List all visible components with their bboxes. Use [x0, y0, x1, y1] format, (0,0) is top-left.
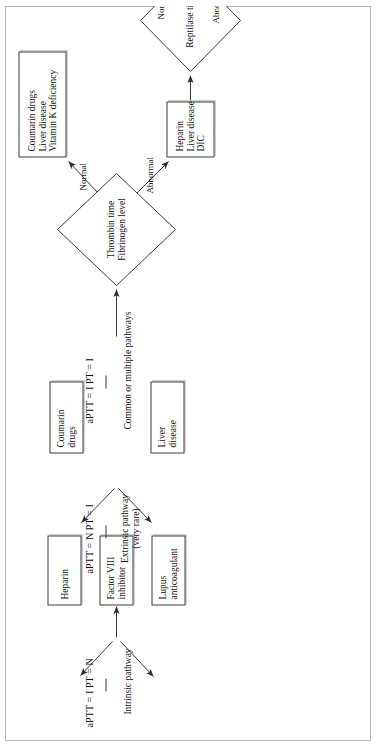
node-coumarin-drugs: Coumarin drugs — [49, 381, 83, 453]
decision-thrombin-time: Thrombin time Fibrinogen level — [56, 172, 176, 286]
group-subtitle-common: Common or multiple pathways — [122, 295, 133, 445]
decision-label-line1: Reptilase time — [184, 6, 195, 47]
flowchart-canvas: aPTT = I PT = N Intrinsic pathway Hepari… — [5, 6, 371, 741]
node-heparin-liver-dic: Heparin Liver disease DIC — [166, 101, 214, 157]
group-subtitle-line2: (very rare) — [130, 478, 141, 578]
decision-label: Reptilase time — [184, 6, 195, 47]
group-subtitle-intrinsic: Intrinsic pathway — [122, 635, 133, 727]
edge-label-abnormal-reptilase: Abnormal — [210, 6, 220, 23]
node-line: Heparin — [59, 568, 70, 599]
node-line: Heparin — [174, 120, 185, 151]
node-line: Vitamin K deficiency — [47, 69, 58, 151]
group-title-extrinsic: aPTT = N PT = I — [83, 504, 94, 573]
group-divider-tick-common — [105, 375, 106, 388]
decision-label-line2: Fibrinogen level — [116, 198, 127, 261]
group-subtitle-extrinsic: Extrinsic pathway (very rare) — [119, 478, 142, 578]
node-line: Coumarin — [55, 409, 66, 447]
node-line: Liver — [156, 426, 167, 447]
group-divider-tick-intrinsic — [105, 678, 106, 691]
node-line: Coumarin drugs — [26, 90, 37, 151]
node-heparin-intrinsic: Heparin — [47, 535, 81, 605]
decision-label: Thrombin time Fibrinogen level — [105, 198, 127, 261]
group-title-intrinsic: aPTT = I PT = N — [83, 658, 94, 727]
node-lupus-anticoagulant: Lupus anticoagulant — [151, 535, 185, 605]
edge-label-normal-thrombin: Normal — [77, 163, 87, 191]
node-line: anticoagulant — [168, 548, 179, 599]
node-line: DIC — [195, 135, 206, 151]
node-line: Lupus — [157, 575, 168, 599]
decision-reptilase-time: Reptilase time — [139, 6, 241, 72]
node-liver-disease: Liver disease — [150, 381, 184, 453]
edge-label-abnormal-thrombin: Abnormal — [144, 157, 154, 194]
group-title-common: aPTT = I PT = I — [83, 358, 94, 423]
flowchart-canvas-wrap: aPTT = I PT = N Intrinsic pathway Hepari… — [5, 6, 371, 741]
node-line: Factor VIII — [105, 556, 116, 599]
group-divider-tick-extrinsic — [105, 525, 106, 538]
node-line: Liver disease — [37, 101, 48, 151]
group-subtitle-line1: Extrinsic pathway — [119, 478, 130, 578]
edge-label-normal-reptilase: Normal — [155, 6, 165, 19]
node-line: disease — [167, 420, 178, 447]
node-line: drugs — [66, 426, 77, 447]
figure-page: aPTT = I PT = N Intrinsic pathway Hepari… — [0, 0, 380, 748]
decision-label-line1: Thrombin time — [105, 198, 116, 261]
node-coumarin-liver-vitk: Coumarin drugs Liver disease Vitamin K d… — [18, 51, 66, 157]
node-line: Liver disease — [185, 101, 196, 151]
